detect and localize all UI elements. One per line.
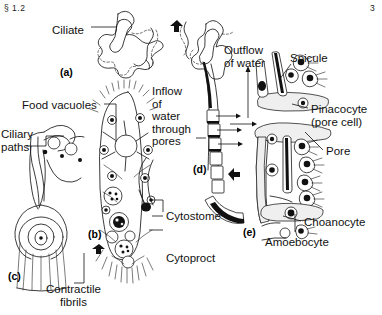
panel-label-b: (b): [88, 228, 101, 240]
panel-e-artwork: [230, 52, 331, 240]
panel-label-a: (a): [60, 66, 73, 78]
panel-a-artwork: [98, 11, 233, 79]
page-number: 3: [370, 3, 375, 13]
label-ciliate: Ciliate: [52, 24, 84, 37]
label-food-vacuoles: Food vacuoles: [22, 99, 97, 112]
label-contractile-fibrils: Contractile fibrils: [46, 283, 101, 308]
figure-page: § 1.2 3: [0, 0, 382, 315]
label-pinacocyte: Pinacocyte (pore cell): [311, 103, 367, 128]
figure-artwork: [0, 0, 382, 315]
label-outflow-of-water: Outflow of water: [224, 44, 265, 69]
section-number: § 1.2: [4, 3, 25, 13]
label-amoebocyte: Amoebocyte: [265, 236, 329, 249]
panel-b-artwork: [90, 80, 158, 283]
panel-label-d: (d): [193, 163, 206, 175]
label-cytostome: Cytostome: [166, 210, 221, 223]
label-inflow-of-water: Inflow of water through pores: [152, 85, 191, 148]
panel-label-c: (c): [8, 270, 21, 282]
panel-label-e: (e): [243, 226, 256, 238]
label-spicule: Spicule: [290, 52, 328, 65]
panel-d-artwork: [203, 62, 251, 223]
label-cytoproct: Cytoproct: [166, 252, 215, 265]
label-choanocyte: Choanocyte: [304, 216, 365, 229]
label-pore: Pore: [326, 145, 350, 158]
label-ciliary-paths: Ciliary paths: [1, 128, 33, 153]
